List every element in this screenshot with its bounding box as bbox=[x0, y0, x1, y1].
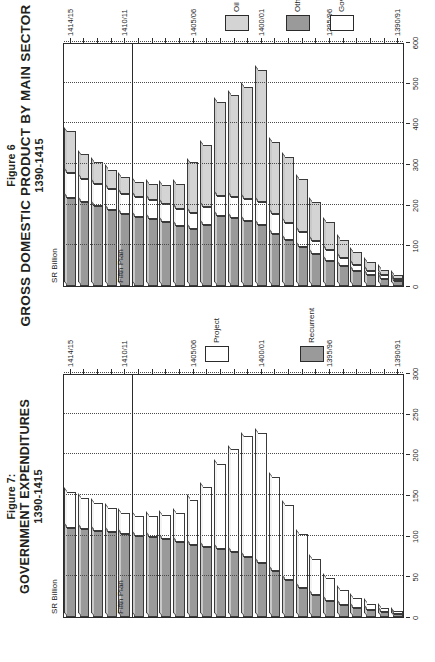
bar-segment bbox=[230, 197, 240, 218]
value-tick-mark bbox=[406, 286, 410, 287]
bar-segment bbox=[243, 221, 253, 286]
legend-swatch bbox=[205, 346, 229, 362]
bar-segment-3d-cap bbox=[323, 573, 326, 600]
bar-segment bbox=[202, 207, 212, 225]
value-tick-label: 50 bbox=[411, 573, 420, 581]
bar-segment-3d-cap bbox=[64, 487, 67, 527]
bar-segment bbox=[393, 275, 403, 279]
bar-segment-3d-cap bbox=[173, 508, 176, 541]
bar-segment bbox=[134, 516, 144, 536]
bar-segment bbox=[339, 605, 349, 617]
category-tick-mark bbox=[193, 38, 194, 43]
bar-segment bbox=[339, 258, 349, 266]
bar-segment bbox=[202, 225, 212, 286]
gridline bbox=[64, 163, 403, 164]
bar-segment bbox=[189, 162, 199, 212]
bar-segment-3d-cap bbox=[228, 547, 231, 616]
bar-segment bbox=[120, 177, 130, 194]
bar-row bbox=[243, 375, 253, 617]
bar-segment-3d-cap bbox=[105, 503, 108, 531]
figure-7-label: Figure 7: bbox=[6, 331, 18, 662]
category-tick-mark bbox=[83, 38, 84, 43]
value-tick-label: 150 bbox=[411, 490, 420, 503]
bar-segment-3d-cap bbox=[214, 544, 217, 616]
value-tick-mark bbox=[406, 536, 410, 537]
bar-segment bbox=[107, 210, 117, 286]
bar-segment bbox=[325, 222, 335, 250]
bar-segment bbox=[161, 539, 171, 617]
bar-segment bbox=[161, 222, 171, 286]
figure-6-plot-area bbox=[63, 43, 404, 287]
bar-row bbox=[93, 44, 103, 286]
value-tick-mark bbox=[406, 414, 410, 415]
bar-segment-3d-cap bbox=[282, 500, 285, 579]
legend-label: Recurrent bbox=[307, 308, 316, 343]
bar-row bbox=[161, 375, 171, 617]
figure-6-subtitle: 1390-1415 bbox=[33, 0, 45, 331]
category-tick-label: 1414/15 bbox=[65, 9, 74, 36]
figure-6: Figure 6 GROSS DOMESTIC PRODUCT BY MAIN … bbox=[0, 0, 435, 331]
figure-6-fifth-plan-label: Fifth Plan bbox=[116, 249, 125, 283]
bar-row bbox=[284, 44, 294, 286]
bar-segment bbox=[202, 547, 212, 617]
bar-segment-3d-cap bbox=[296, 583, 299, 616]
bar-segment bbox=[120, 513, 130, 534]
category-tick-mark bbox=[315, 369, 316, 374]
bar-row bbox=[66, 375, 76, 617]
bar-row bbox=[298, 44, 308, 286]
bar-segment-3d-cap bbox=[91, 498, 94, 529]
gridline bbox=[64, 535, 403, 536]
bar-segment-3d-cap bbox=[118, 172, 121, 193]
bar-segment bbox=[134, 182, 144, 197]
bar-segment bbox=[352, 271, 362, 286]
bar-row bbox=[216, 44, 226, 286]
bar-segment bbox=[175, 226, 185, 286]
bar-segment bbox=[298, 247, 308, 286]
bar-segment bbox=[175, 184, 185, 209]
figure-7-fifth-plan-divider bbox=[132, 375, 133, 617]
category-tick-mark bbox=[206, 38, 207, 43]
bar-segment bbox=[284, 580, 294, 617]
category-tick-mark bbox=[97, 369, 98, 374]
category-tick-mark bbox=[152, 369, 153, 374]
bar-segment-3d-cap bbox=[64, 523, 67, 616]
bar-segment-3d-cap bbox=[105, 165, 108, 188]
bar-segment bbox=[352, 598, 362, 608]
bar-segment bbox=[148, 184, 158, 200]
category-tick-mark bbox=[97, 38, 98, 43]
bar-segment bbox=[243, 199, 253, 221]
bar-row bbox=[189, 44, 199, 286]
category-tick-mark bbox=[384, 369, 385, 374]
category-tick-mark bbox=[165, 38, 166, 43]
category-tick-mark bbox=[124, 369, 125, 374]
bar-segment-3d-cap bbox=[159, 510, 162, 538]
bar-segment bbox=[380, 270, 390, 276]
category-tick-label: 1410/11 bbox=[120, 9, 129, 36]
bar-segment-3d-cap bbox=[159, 217, 162, 285]
bar-segment bbox=[257, 225, 267, 286]
bar-row bbox=[80, 375, 90, 617]
category-tick-label: 1400/01 bbox=[256, 9, 265, 36]
bar-row bbox=[366, 44, 376, 286]
category-tick-mark bbox=[138, 369, 139, 374]
category-tick-mark bbox=[343, 38, 344, 43]
category-tick-mark bbox=[234, 369, 235, 374]
figure-7-axis-caption: SR Billion bbox=[50, 579, 59, 614]
bar-segment bbox=[134, 197, 144, 217]
bar-row bbox=[134, 375, 144, 617]
bar-segment bbox=[366, 275, 376, 286]
bar-segment bbox=[339, 240, 349, 259]
bar-segment-3d-cap bbox=[187, 495, 190, 544]
bar-segment-3d-cap bbox=[282, 575, 285, 616]
bar-segment bbox=[366, 262, 376, 271]
gridline bbox=[64, 413, 403, 414]
bar-segment bbox=[380, 275, 390, 278]
category-tick-mark bbox=[70, 38, 71, 43]
bar-row bbox=[134, 44, 144, 286]
bar-segment bbox=[325, 601, 335, 617]
bar-segment-3d-cap bbox=[78, 197, 81, 285]
bar-row bbox=[393, 375, 403, 617]
category-tick-mark bbox=[70, 369, 71, 374]
bar-row bbox=[107, 375, 117, 617]
bar-segment-3d-cap bbox=[214, 211, 217, 285]
